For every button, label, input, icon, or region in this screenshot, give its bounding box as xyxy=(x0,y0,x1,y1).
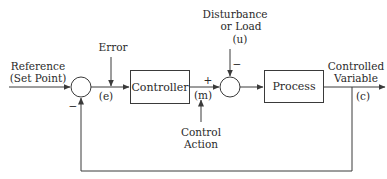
error-summing-junction xyxy=(71,77,91,97)
disturbance-minus-sign: − xyxy=(232,58,242,70)
c-symbol: (c) xyxy=(355,90,371,102)
control-action-label: Control Action xyxy=(181,126,221,150)
disturbance-label: Disturbance or Load xyxy=(200,8,270,32)
disturbance-line1: Disturbance xyxy=(200,8,270,20)
disturbance-line2: or Load xyxy=(200,20,270,32)
disturbance-summing-junction xyxy=(220,77,240,97)
reference-label-line1: Reference xyxy=(8,60,68,72)
m-symbol: (m) xyxy=(192,89,214,101)
reference-label: Reference (Set Point) xyxy=(8,60,68,84)
controlled-variable-label: Controlled Variable xyxy=(326,60,386,84)
reference-label-line2: (Set Point) xyxy=(8,72,68,84)
controller-label: Controller xyxy=(131,81,188,94)
error-label: Error xyxy=(98,41,128,53)
process-label: Process xyxy=(272,80,315,93)
plus-sign: + xyxy=(203,74,213,86)
control-action-line1: Control xyxy=(181,126,221,138)
controlled-variable-line1: Controlled xyxy=(326,60,386,72)
process-block: Process xyxy=(264,70,324,103)
control-action-line2: Action xyxy=(181,138,221,150)
controller-block: Controller xyxy=(130,70,190,104)
error-symbol: (e) xyxy=(96,90,116,102)
u-symbol: (u) xyxy=(232,33,248,45)
feedback-minus-sign: − xyxy=(68,100,78,112)
controlled-variable-line2: Variable xyxy=(326,72,386,84)
